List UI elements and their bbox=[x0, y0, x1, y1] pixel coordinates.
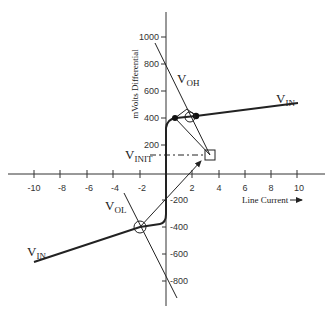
x-tick-label: 8 bbox=[268, 183, 273, 193]
vin-lower-label: VIN bbox=[27, 244, 46, 261]
operating-point-dot bbox=[172, 115, 178, 121]
voh-load-line bbox=[155, 43, 210, 155]
y-tick-labels-negative: -200 -400 -600 -800 bbox=[170, 195, 188, 286]
y-tick-label: 600 bbox=[144, 86, 159, 96]
y-tick-label: 1000 bbox=[139, 32, 159, 42]
vin-lower-curve bbox=[34, 174, 166, 262]
x-tick-label: -8 bbox=[58, 183, 66, 193]
x-tick-label: -10 bbox=[27, 183, 40, 193]
y-tick-label: -600 bbox=[170, 249, 188, 259]
vol-label: VOL bbox=[105, 198, 126, 215]
construction-line bbox=[175, 118, 210, 155]
x-tick-label: -6 bbox=[85, 183, 93, 193]
y-tick-label: 400 bbox=[144, 113, 159, 123]
x-tick-label: -4 bbox=[111, 183, 119, 193]
y-tick-label: -200 bbox=[170, 195, 188, 205]
vol-load-line bbox=[124, 193, 177, 298]
x-tick-label: -2 bbox=[138, 183, 146, 193]
x-tick-label: 2 bbox=[189, 183, 194, 193]
x-tick-label: 6 bbox=[242, 183, 247, 193]
voh-label: VOH bbox=[177, 71, 200, 88]
y-tick-label: -800 bbox=[170, 276, 188, 286]
x-tick-label: 4 bbox=[216, 183, 221, 193]
x-axis-title: Line Current bbox=[242, 195, 289, 205]
y-tick-labels-positive: 1000 800 600 400 200 bbox=[139, 32, 159, 150]
y-tick-label: 800 bbox=[144, 59, 159, 69]
vin-upper-label: VIN bbox=[276, 91, 295, 108]
y-axis-title: mVolts Differential bbox=[130, 49, 140, 119]
y-tick-label: -400 bbox=[170, 222, 188, 232]
x-tick-label: 10 bbox=[294, 183, 304, 193]
y-tick-label: 200 bbox=[144, 140, 159, 150]
transition-arrow bbox=[140, 161, 201, 227]
vi-characteristic-diagram: -10 -8 -6 -4 -2 2 4 6 8 10 1000 800 600 … bbox=[0, 0, 333, 316]
